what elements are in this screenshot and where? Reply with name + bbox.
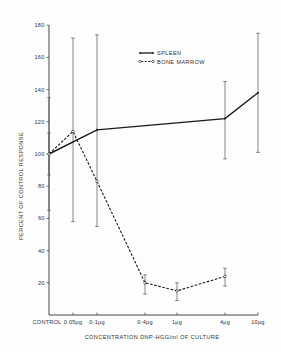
x-tick-label: 0·05μg <box>64 319 83 325</box>
x-tick-label: 1μg <box>172 319 182 325</box>
y-axis-ticks: 20406080100120140160180 <box>35 22 49 286</box>
legend-bone-marrow-label: BONE MARROW <box>157 59 205 65</box>
legend: SPLEEN BONE MARROW <box>139 50 205 65</box>
y-axis-label: PERCENT OF CONTROL RESPONSE <box>18 132 24 240</box>
legend-bone-marrow-marker <box>139 60 141 62</box>
line-chart: 20406080100120140160180 CONTROL0·05μg0·1… <box>0 0 281 352</box>
data-series <box>48 92 259 292</box>
x-tick-label: 10μg <box>251 319 264 325</box>
error-bars <box>47 33 260 300</box>
series-line-spleen <box>49 93 258 154</box>
x-tick-label: 0·1μg <box>89 319 104 325</box>
data-point-bone-marrow <box>72 130 75 133</box>
y-tick-label: 100 <box>35 151 45 157</box>
x-axis-label: CONCENTRATION DNP-HGG/ml OF CULTURE <box>85 334 220 340</box>
data-point-spleen <box>96 129 98 131</box>
data-point-bone-marrow <box>48 153 51 156</box>
data-point-bone-marrow <box>224 275 227 278</box>
y-tick-label: 160 <box>35 54 45 60</box>
y-tick-label: 180 <box>35 22 45 28</box>
series-line-bone-marrow <box>49 131 225 290</box>
data-point-bone-marrow <box>176 290 179 293</box>
y-tick-label: 40 <box>38 248 45 254</box>
legend-spleen-label: SPLEEN <box>157 50 181 56</box>
y-tick-label: 60 <box>38 215 45 221</box>
x-tick-label: 0·4μg <box>137 319 152 325</box>
data-point-spleen <box>257 92 259 94</box>
data-point-spleen <box>224 118 226 120</box>
x-tick-label: CONTROL <box>33 319 62 325</box>
data-point-bone-marrow <box>96 180 99 183</box>
data-point-bone-marrow <box>144 282 147 285</box>
y-tick-label: 20 <box>38 280 45 286</box>
x-axis-ticks: CONTROL0·05μg0·1μg0·4μg1μg4μg10μg <box>33 313 265 326</box>
legend-spleen-marker <box>139 52 141 54</box>
x-tick-label: 4μg <box>220 319 230 325</box>
axes <box>49 25 258 315</box>
legend-spleen-marker-end <box>152 52 154 54</box>
y-tick-label: 120 <box>35 119 45 125</box>
y-tick-label: 140 <box>35 87 45 93</box>
y-tick-label: 80 <box>38 183 45 189</box>
legend-bone-marrow-marker-end <box>152 60 154 62</box>
